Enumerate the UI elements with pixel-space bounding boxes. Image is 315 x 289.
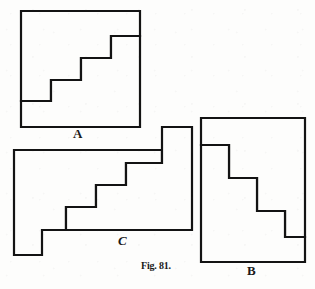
shape-b-group — [201, 118, 305, 262]
shape-a-label: A — [73, 127, 82, 140]
figure-81-canvas: A B C Fig. 81. — [0, 0, 315, 289]
figure-caption: Fig. 81. — [141, 261, 171, 271]
shape-c-group — [14, 127, 192, 255]
figure-drawing — [0, 0, 315, 289]
shape-c-label: C — [118, 234, 127, 247]
shape-a-group — [21, 11, 140, 127]
shape-b-label: B — [247, 264, 256, 277]
